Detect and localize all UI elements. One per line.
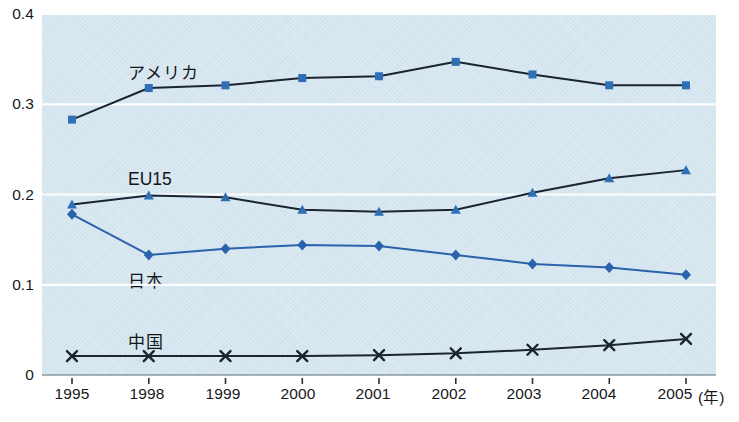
data-point-marker — [221, 243, 231, 254]
data-point-marker — [604, 262, 614, 273]
data-point-marker — [605, 81, 613, 89]
data-point-marker — [681, 269, 691, 280]
data-point-marker — [529, 70, 537, 78]
data-point-marker — [145, 84, 153, 92]
data-point-marker — [298, 74, 306, 82]
data-point-marker — [451, 249, 461, 260]
series-line-0 — [72, 62, 686, 120]
data-point-marker — [528, 258, 538, 269]
data-point-marker — [68, 116, 76, 124]
data-point-marker — [374, 240, 384, 251]
series-line-1 — [72, 170, 686, 212]
data-point-marker — [682, 81, 690, 89]
data-point-marker — [144, 249, 154, 260]
chart-vector-layer — [0, 0, 739, 422]
data-point-marker — [452, 58, 460, 66]
line-chart: 0.4 0.3 0.2 0.1 0 1995 1998 1999 2000 20… — [0, 0, 739, 422]
data-point-marker — [375, 72, 383, 80]
data-point-marker — [297, 240, 307, 251]
data-point-marker — [222, 81, 230, 89]
data-point-marker — [67, 209, 77, 220]
